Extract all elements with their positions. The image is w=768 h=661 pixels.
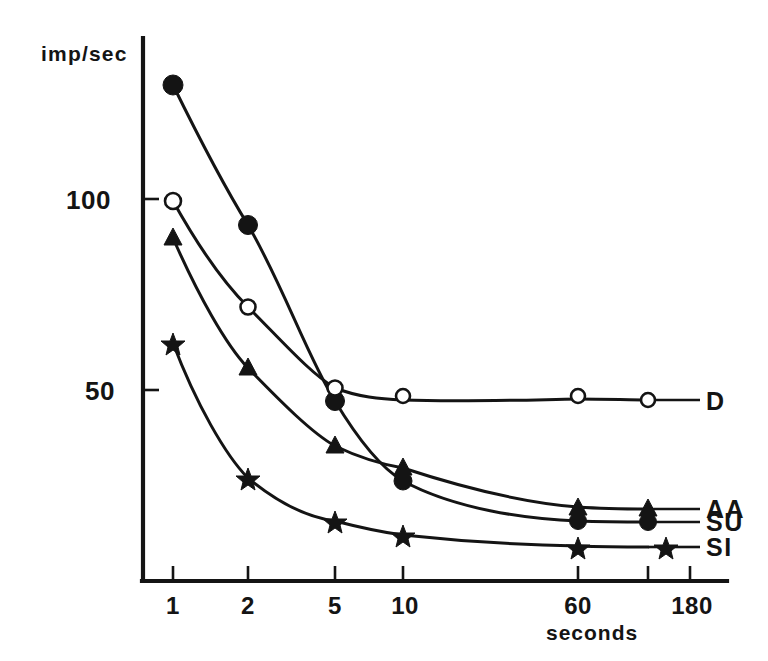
series-si-marker (323, 511, 347, 533)
y-axis-title: imp/sec (41, 42, 128, 65)
series-aa-marker (326, 436, 344, 453)
x-axis-title: seconds (546, 621, 638, 644)
series-su-marker (163, 75, 183, 95)
series-si-marker (161, 333, 185, 355)
series-d-marker (328, 381, 343, 396)
y-ticks-group (143, 199, 159, 390)
chart-canvas: imp/sec 100 50 1 2 5 10 60 180 seconds S… (0, 0, 768, 661)
x-tick-label-60: 60 (564, 592, 592, 619)
x-tick-label-10: 10 (391, 592, 419, 619)
series-d-marker (641, 393, 655, 407)
series-label-aa: AA (706, 495, 745, 523)
series-su-marker (239, 216, 258, 235)
x-tick-label-180: 180 (671, 592, 713, 619)
chart-figure: imp/sec 100 50 1 2 5 10 60 180 seconds S… (0, 0, 768, 661)
axes-group (142, 38, 727, 581)
series-si-marker (566, 537, 590, 559)
x-tick-label-2: 2 (241, 592, 255, 619)
series-d-marker (165, 193, 181, 209)
series-si-markers (161, 333, 678, 559)
series-aa-marker (164, 228, 182, 245)
x-ticks-group (173, 566, 690, 581)
series-si-marker (391, 525, 415, 547)
series-label-si: SI (706, 533, 733, 561)
series-si-marker (236, 468, 260, 490)
x-tick-label-5: 5 (328, 592, 342, 619)
series-d-marker (396, 389, 410, 403)
series-d-marker (241, 300, 256, 315)
y-tick-label-100: 100 (66, 185, 111, 215)
x-tick-label-1: 1 (166, 592, 180, 619)
series-d-marker (571, 389, 585, 403)
y-tick-label-50: 50 (85, 376, 115, 406)
series-si-marker (654, 537, 678, 559)
series-label-d: D (706, 387, 726, 415)
